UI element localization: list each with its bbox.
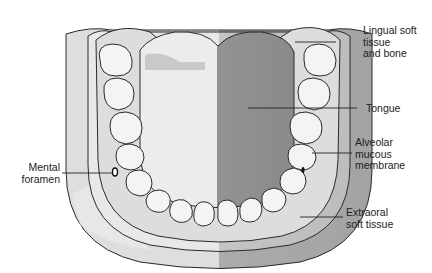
tooth xyxy=(288,144,316,170)
tooth xyxy=(104,78,134,110)
mental-foramen-left xyxy=(113,168,118,176)
tooth xyxy=(99,44,132,76)
mental-foramen-right xyxy=(302,167,305,173)
tooth xyxy=(110,112,142,144)
label-lingual-soft-tissue: Lingual soft tissue and bone xyxy=(363,25,417,60)
tooth xyxy=(262,188,286,212)
label-mental-foramen: Mental foramen xyxy=(20,162,60,185)
tooth xyxy=(146,190,170,212)
tooth xyxy=(290,112,322,144)
label-tongue: Tongue xyxy=(366,103,400,115)
tooth xyxy=(194,202,215,226)
tooth xyxy=(126,170,152,196)
tooth xyxy=(116,144,144,170)
tooth xyxy=(298,78,330,110)
tooth xyxy=(304,44,336,76)
tooth xyxy=(170,200,193,223)
tooth xyxy=(218,200,238,226)
label-extraoral-soft-tissue: Extraoral soft tissue xyxy=(346,207,393,230)
tooth xyxy=(240,198,262,222)
label-alveolar-mucous-membrane: Alveolar mucous membrane xyxy=(355,137,405,172)
